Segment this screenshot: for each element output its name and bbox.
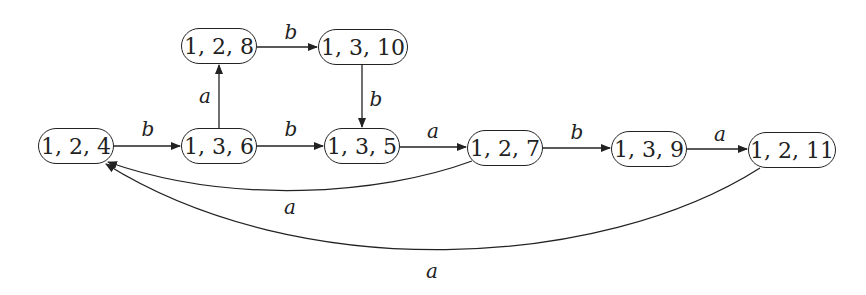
state-1-3-5: 1, 3, 5 xyxy=(324,128,400,164)
state-1-2-4: 1, 2, 4 xyxy=(38,128,114,164)
state-1-2-11: 1, 2, 11 xyxy=(748,132,836,168)
edge-label-136-135: b xyxy=(285,117,298,141)
edge-label-128-1310: b xyxy=(285,20,298,44)
edge-label-124-136: b xyxy=(142,117,155,141)
edge-label-1211-124: a xyxy=(426,259,438,283)
edge-label-139-1211: a xyxy=(714,122,726,146)
state-1-2-8: 1, 2, 8 xyxy=(181,28,257,64)
state-1-3-6: 1, 3, 6 xyxy=(181,128,257,164)
edge-label-127-139: b xyxy=(571,120,584,144)
edge-label-135-127: a xyxy=(427,119,439,143)
edge-label-1310-135: b xyxy=(370,87,383,111)
edge-1211-124 xyxy=(106,164,760,250)
edges-layer xyxy=(0,0,866,295)
state-1-2-7: 1, 2, 7 xyxy=(467,130,543,166)
edge-127-124 xyxy=(108,161,472,191)
edge-label-127-124: a xyxy=(284,195,296,219)
edge-label-136-128: a xyxy=(199,84,211,108)
state-1-3-10: 1, 3, 10 xyxy=(318,29,408,65)
state-1-3-9: 1, 3, 9 xyxy=(611,131,687,167)
